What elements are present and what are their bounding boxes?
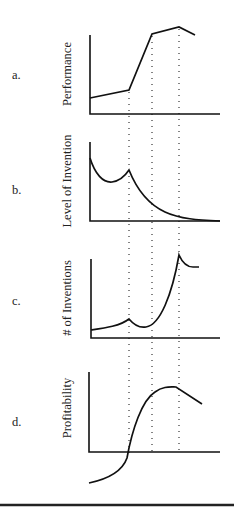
panel-a: a. Performance (12, 27, 220, 114)
panel-label-a: a. (12, 68, 21, 82)
profitability-curve (89, 387, 202, 483)
axes-d (89, 372, 220, 452)
panel-label-d: d. (12, 415, 21, 429)
technology-lifecycle-diagram: a. Performance b. Level of Invention c. … (0, 0, 234, 510)
panel-b: b. Level of Invention (12, 134, 220, 228)
y-axis-label-profitability: Profitability (60, 377, 74, 438)
panel-label-c: c. (12, 294, 21, 308)
panel-d: d. Profitability (12, 372, 220, 483)
level-of-invention-curve (90, 158, 220, 221)
panel-label-b: b. (12, 183, 21, 197)
panel-c: c. # of Inventions (12, 255, 220, 338)
number-of-inventions-curve (91, 255, 199, 330)
axes-a (90, 35, 220, 114)
y-axis-label-number-of-inventions: # of Inventions (60, 260, 74, 336)
y-axis-label-performance: Performance (60, 42, 74, 106)
performance-curve (90, 27, 195, 98)
vertical-guides (129, 29, 179, 455)
y-axis-label-level-of-invention: Level of Invention (60, 134, 74, 228)
